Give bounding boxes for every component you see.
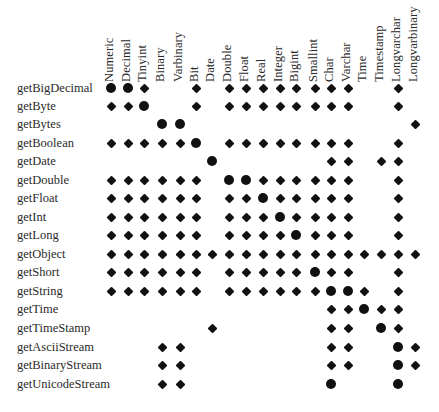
- diamond-icon: [175, 138, 185, 148]
- large-dot-icon: [191, 138, 201, 148]
- diamond-icon: [343, 267, 353, 277]
- large-dot-icon: [157, 119, 167, 129]
- row-label-getbigdecimal: getBigDecimal: [17, 80, 93, 96]
- large-dot-icon: [326, 379, 336, 389]
- diamond-icon: [291, 286, 301, 296]
- diamond-icon: [275, 83, 285, 93]
- diamond-icon: [310, 193, 320, 203]
- row-label-getint: getInt: [17, 209, 46, 225]
- column-header-bit: Bit: [188, 0, 204, 82]
- diamond-icon: [310, 138, 320, 148]
- diamond-icon: [123, 212, 133, 222]
- diamond-icon: [139, 83, 149, 93]
- diamond-icon: [106, 212, 116, 222]
- diamond-icon: [175, 175, 185, 185]
- diamond-icon: [175, 249, 185, 259]
- diamond-icon: [106, 175, 116, 185]
- diamond-icon: [123, 267, 133, 277]
- diamond-icon: [157, 342, 167, 352]
- row-label-getfloat: getFloat: [17, 190, 58, 206]
- diamond-icon: [310, 212, 320, 222]
- diamond-icon: [291, 249, 301, 259]
- diamond-icon: [224, 101, 234, 111]
- diamond-icon: [326, 156, 336, 166]
- diamond-icon: [139, 249, 149, 259]
- diamond-icon: [291, 83, 301, 93]
- diamond-icon: [175, 212, 185, 222]
- diamond-icon: [241, 230, 251, 240]
- diamond-icon: [224, 212, 234, 222]
- diamond-icon: [343, 193, 353, 203]
- diamond-icon: [224, 230, 234, 240]
- diamond-icon: [224, 138, 234, 148]
- diamond-icon: [359, 286, 369, 296]
- large-dot-icon: [393, 379, 403, 389]
- diamond-icon: [326, 323, 336, 333]
- column-label: Bit: [187, 66, 202, 82]
- diamond-icon: [275, 286, 285, 296]
- diamond-icon: [258, 267, 268, 277]
- diamond-icon: [157, 360, 167, 370]
- diamond-icon: [343, 304, 353, 314]
- diamond-icon: [139, 230, 149, 240]
- diamond-icon: [343, 138, 353, 148]
- diamond-icon: [157, 249, 167, 259]
- diamond-icon: [326, 249, 336, 259]
- row-label-getboolean: getBoolean: [17, 135, 74, 151]
- diamond-icon: [157, 212, 167, 222]
- diamond-icon: [191, 83, 201, 93]
- diamond-icon: [291, 267, 301, 277]
- diamond-icon: [258, 212, 268, 222]
- column-label: Decimal: [119, 39, 134, 82]
- column-label: Varchar: [339, 42, 354, 82]
- diamond-icon: [393, 304, 403, 314]
- diamond-icon: [376, 156, 386, 166]
- diamond-icon: [191, 249, 201, 259]
- large-dot-icon: [393, 342, 403, 352]
- diamond-icon: [393, 230, 403, 240]
- large-dot-icon: [275, 212, 285, 222]
- diamond-icon: [343, 101, 353, 111]
- diamond-icon: [241, 267, 251, 277]
- diamond-icon: [310, 286, 320, 296]
- diamond-icon: [175, 360, 185, 370]
- diamond-icon: [291, 175, 301, 185]
- diamond-icon: [241, 138, 251, 148]
- diamond-icon: [326, 101, 336, 111]
- diamond-icon: [343, 249, 353, 259]
- diamond-icon: [224, 193, 234, 203]
- diamond-icon: [291, 138, 301, 148]
- diamond-icon: [139, 175, 149, 185]
- large-dot-icon: [310, 267, 320, 277]
- column-label: Longvarchar: [389, 17, 404, 82]
- diamond-icon: [291, 193, 301, 203]
- diamond-icon: [106, 101, 116, 111]
- diamond-icon: [291, 101, 301, 111]
- diamond-icon: [326, 342, 336, 352]
- column-header-bigint: Bigint: [288, 0, 304, 82]
- column-header-char: Char: [323, 0, 339, 82]
- diamond-icon: [310, 101, 320, 111]
- diamond-icon: [393, 249, 403, 259]
- large-dot-icon: [258, 193, 268, 203]
- diamond-icon: [258, 83, 268, 93]
- diamond-icon: [326, 138, 336, 148]
- diamond-icon: [410, 119, 420, 129]
- diamond-icon: [175, 193, 185, 203]
- diamond-icon: [191, 193, 201, 203]
- column-label: Varbinary: [171, 32, 186, 82]
- diamond-icon: [139, 267, 149, 277]
- diamond-icon: [275, 193, 285, 203]
- diamond-icon: [175, 342, 185, 352]
- diamond-icon: [123, 249, 133, 259]
- row-label-getasciistream: getAsciiStream: [17, 339, 94, 355]
- diamond-icon: [175, 379, 185, 389]
- diamond-icon: [343, 323, 353, 333]
- diamond-icon: [241, 249, 251, 259]
- large-dot-icon: [106, 83, 116, 93]
- diamond-icon: [393, 156, 403, 166]
- column-header-smallint: Smallint: [307, 0, 323, 82]
- diamond-icon: [191, 286, 201, 296]
- column-header-binary: Binary: [154, 0, 170, 82]
- diamond-icon: [139, 193, 149, 203]
